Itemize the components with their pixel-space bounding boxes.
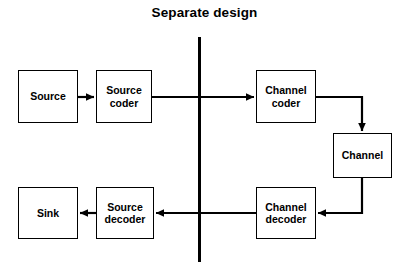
node-source-decoder: Source decoder xyxy=(96,187,154,239)
node-channel: Channel xyxy=(333,133,392,178)
node-sink: Sink xyxy=(18,187,78,239)
node-source: Source xyxy=(18,70,78,123)
node-source-decoder-label: Source decoder xyxy=(105,201,146,226)
edge-channel-to-channel-decoder xyxy=(318,178,362,213)
node-source-coder: Source coder xyxy=(96,70,152,123)
edge-channel-coder-to-channel xyxy=(316,97,362,131)
node-channel-coder-label: Channel coder xyxy=(265,84,306,109)
node-source-coder-label: Source coder xyxy=(106,84,142,109)
diagram-canvas: Separate design Source Source coder Chan… xyxy=(0,0,409,274)
node-channel-decoder-label: Channel decoder xyxy=(265,201,306,226)
node-channel-decoder: Channel decoder xyxy=(256,187,316,239)
node-source-label: Source xyxy=(30,90,66,102)
node-channel-coder: Channel coder xyxy=(256,70,316,123)
node-channel-label: Channel xyxy=(342,149,383,161)
node-sink-label: Sink xyxy=(37,207,59,219)
